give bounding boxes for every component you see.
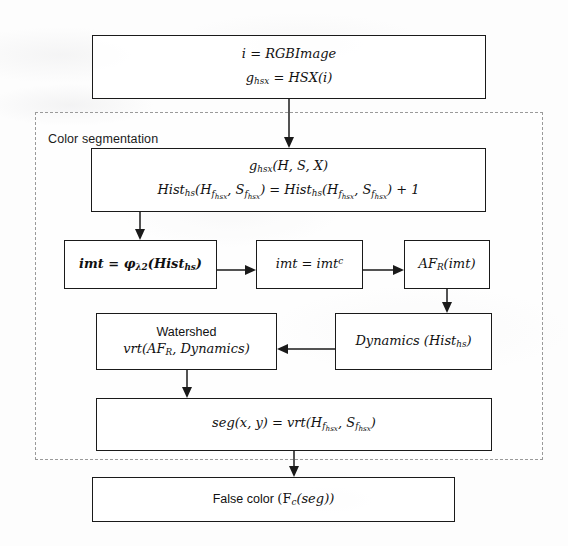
node-filter[interactable]: imt = φλ2(Hisths) [64,240,217,289]
node-segmentation-formula: seg(x, y) = vrt(Hfhsx, Sfhsx) [212,416,376,434]
node-histogram[interactable]: ghsx(H, S, X) Hisths(Hfhsx, Sfhsx) = His… [91,148,486,212]
node-filter-formula: imt = φλ2(Hisths) [79,257,202,273]
node-watershed-title: Watershed [157,325,217,339]
node-dynamics[interactable]: Dynamics (Hisths) [335,313,492,370]
node-afr-formula: AFR(imt) [419,257,476,273]
node-complement-formula: imt = imtc [276,256,344,272]
node-false-color-label: False color (Fc(seg)) [213,492,335,508]
node-segmentation[interactable]: seg(x, y) = vrt(Hfhsx, Sfhsx) [96,398,492,451]
node-histogram-line-2: Hisths(Hfhsx, Sfhsx) = Hisths(Hfhsx, Sfh… [157,183,419,201]
color-segmentation-group-label: Color segmentation [48,132,158,146]
node-afr[interactable]: AFR(imt) [404,240,490,289]
node-input-image[interactable]: i = RGBImage ghsx = HSX(i) [92,35,486,99]
node-input-line-1: i = RGBImage [242,47,336,62]
node-watershed[interactable]: Watershed vrt(AFR, Dynamics) [96,313,277,370]
node-watershed-formula: vrt(AFR, Dynamics) [123,342,250,358]
node-false-color[interactable]: False color (Fc(seg)) [92,477,455,522]
node-histogram-line-1: ghsx(H, S, X) [249,159,328,175]
node-input-line-2: ghsx = HSX(i) [246,71,333,87]
node-complement[interactable]: imt = imtc [256,240,363,289]
node-dynamics-formula: Dynamics (Hisths) [355,334,471,350]
